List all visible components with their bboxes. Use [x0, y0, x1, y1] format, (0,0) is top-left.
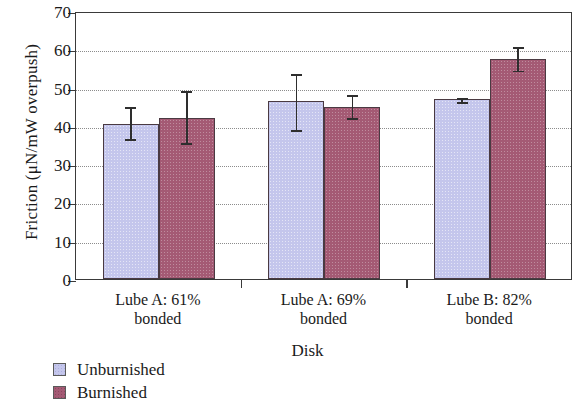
y-tick-label: 10 — [54, 233, 71, 253]
y-axis-title: Friction (μN/mW overpush) — [22, 5, 42, 280]
x-category-label-line: Lube A: 61% — [75, 290, 241, 309]
error-bar-cap-top — [125, 107, 136, 109]
legend-swatch-unburnished — [53, 363, 66, 376]
error-bar-cap-top — [513, 47, 524, 49]
error-bar-cap-bottom — [457, 102, 468, 104]
x-category-label: Lube A: 61%bonded — [75, 290, 241, 328]
y-tick-label: 50 — [54, 80, 71, 100]
error-bar — [517, 47, 519, 72]
x-axis-title-text: Disk — [291, 341, 323, 360]
plot-area: 706050403020100 — [75, 12, 572, 280]
y-tick-label: 60 — [54, 41, 71, 61]
legend-item[interactable]: Burnished — [53, 381, 165, 404]
y-tick-label: 30 — [54, 156, 71, 176]
y-tick-label: 40 — [54, 118, 71, 138]
error-bar-cap-top — [457, 98, 468, 100]
error-bar — [352, 95, 354, 120]
error-bar — [296, 74, 298, 131]
y-tick-label: 70 — [54, 3, 71, 23]
error-bar — [461, 98, 463, 103]
bar-burnished[interactable] — [490, 59, 546, 279]
x-category-label-line: bonded — [241, 309, 407, 328]
error-bar-cap-top — [347, 95, 358, 97]
bar-burnished[interactable] — [324, 107, 380, 279]
x-tick-mark — [406, 280, 407, 288]
error-bar — [130, 107, 132, 141]
error-bar — [186, 91, 188, 145]
error-bar-cap-bottom — [291, 130, 302, 132]
legend-label: Unburnished — [77, 360, 165, 380]
error-bar-cap-bottom — [513, 71, 524, 73]
error-bar-cap-top — [181, 91, 192, 93]
legend-label: Burnished — [77, 383, 147, 403]
error-bar-cap-top — [291, 74, 302, 76]
x-category-label-line: Lube A: 69% — [241, 290, 407, 309]
bar-group — [76, 13, 242, 279]
error-bar-cap-bottom — [125, 139, 136, 141]
x-category-label-line: Lube B: 82% — [406, 290, 572, 309]
bar-unburnished[interactable] — [434, 99, 490, 279]
x-category-label: Lube A: 69%bonded — [241, 290, 407, 328]
y-tick-label: 0 — [63, 271, 72, 291]
error-bar-cap-bottom — [181, 143, 192, 145]
bar-unburnished[interactable] — [103, 124, 159, 279]
error-bar-cap-bottom — [347, 118, 358, 120]
legend-swatch-burnished — [53, 386, 66, 399]
legend: UnburnishedBurnished — [53, 358, 165, 404]
bar-series-layer — [76, 13, 571, 279]
x-category-label-line: bonded — [406, 309, 572, 328]
bar-group — [407, 13, 573, 279]
legend-item[interactable]: Unburnished — [53, 358, 165, 381]
bar-group — [242, 13, 408, 279]
y-tick-label: 20 — [54, 194, 71, 214]
x-tick-mark — [241, 280, 242, 288]
x-category-label: Lube B: 82%bonded — [406, 290, 572, 328]
x-category-label-line: bonded — [75, 309, 241, 328]
